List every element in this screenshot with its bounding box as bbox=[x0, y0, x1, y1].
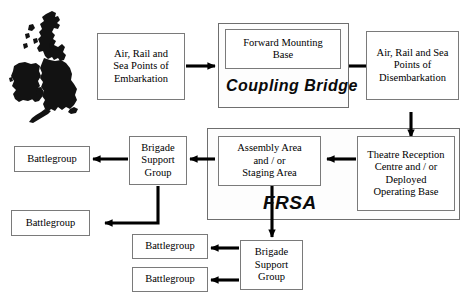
node-battlegroup-3[interactable]: Battlegroup bbox=[132, 234, 208, 259]
node-embarkation[interactable]: Air, Rail and Sea Points of Embarkation bbox=[97, 33, 185, 100]
node-battlegroup-1-label: Battlegroup bbox=[25, 153, 79, 165]
coupling-bridge-label: Coupling Bridge bbox=[226, 77, 358, 95]
node-disembarkation[interactable]: Air, Rail and Sea Points of Disembarkati… bbox=[366, 31, 459, 100]
node-disembarkation-label: Air, Rail and Sea Points of Disembarkati… bbox=[375, 47, 451, 84]
node-forward-mounting-base[interactable]: Forward Mounting Base bbox=[225, 29, 341, 69]
node-assembly-area-label: Assembly Area and / or Staging Area bbox=[235, 142, 303, 179]
node-theatre-reception[interactable]: Theatre Reception Centre and / or Deploy… bbox=[357, 136, 455, 211]
node-battlegroup-3-label: Battlegroup bbox=[143, 240, 197, 252]
node-brigade-support-group-upper[interactable]: Brigade Support Group bbox=[129, 136, 187, 185]
deployment-flow-diagram: Air, Rail and Sea Points of Embarkation … bbox=[0, 0, 465, 303]
node-theatre-reception-label: Theatre Reception Centre and / or Deploy… bbox=[365, 149, 446, 199]
node-battlegroup-2-label: Battlegroup bbox=[24, 217, 78, 229]
node-embarkation-label: Air, Rail and Sea Points of Embarkation bbox=[111, 48, 170, 85]
node-assembly-area[interactable]: Assembly Area and / or Staging Area bbox=[218, 136, 321, 186]
node-battlegroup-4[interactable]: Battlegroup bbox=[132, 267, 208, 292]
node-brigade-support-group-lower[interactable]: Brigade Support Group bbox=[240, 240, 303, 290]
uk-ireland-map-icon bbox=[8, 8, 84, 128]
node-battlegroup-4-label: Battlegroup bbox=[143, 273, 197, 285]
node-brigade-support-group-lower-label: Brigade Support Group bbox=[253, 246, 290, 283]
node-battlegroup-2[interactable]: Battlegroup bbox=[11, 210, 90, 236]
node-battlegroup-1[interactable]: Battlegroup bbox=[14, 146, 90, 172]
node-brigade-support-group-upper-label: Brigade Support Group bbox=[139, 142, 176, 179]
frsa-label: FRSA bbox=[263, 192, 317, 214]
node-forward-mounting-base-label: Forward Mounting Base bbox=[241, 37, 325, 62]
